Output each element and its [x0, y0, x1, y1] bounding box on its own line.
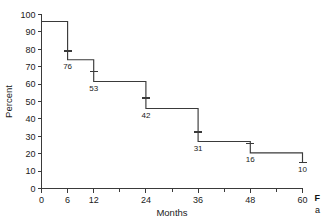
x-tick-label-48: 48: [245, 195, 255, 205]
y-tick-label-100: 100: [20, 10, 35, 20]
caption-fragment-line2: a: [315, 205, 320, 216]
y-tick-label-0: 0: [30, 184, 35, 194]
x-tick-label-12: 12: [89, 195, 99, 205]
at-risk-label-16: 16: [246, 155, 255, 164]
survival-step-curve: [42, 21, 303, 162]
y-axis-title: Percent: [3, 85, 14, 118]
x-tick-label-24: 24: [141, 195, 151, 205]
x-axis-title: Months: [156, 207, 187, 218]
survival-chart-figure: 0102030405060708090100061224364860765342…: [0, 0, 321, 224]
y-tick-label-30: 30: [25, 132, 35, 142]
y-tick-label-80: 80: [25, 45, 35, 55]
y-tick-label-70: 70: [25, 62, 35, 72]
y-tick-label-10: 10: [25, 166, 35, 176]
at-risk-label-76: 76: [63, 62, 72, 71]
x-tick-label-60: 60: [297, 195, 307, 205]
y-tick-label-20: 20: [25, 149, 35, 159]
x-tick-label-6: 6: [65, 195, 70, 205]
y-tick-label-50: 50: [25, 97, 35, 107]
y-tick-label-90: 90: [25, 27, 35, 37]
at-risk-label-31: 31: [194, 144, 203, 153]
y-tick-label-60: 60: [25, 79, 35, 89]
at-risk-label-10: 10: [298, 165, 307, 174]
caption-fragment-line1: F: [315, 193, 321, 204]
x-tick-label-36: 36: [193, 195, 203, 205]
at-risk-label-42: 42: [141, 111, 150, 120]
y-tick-label-40: 40: [25, 114, 35, 124]
x-tick-label-0: 0: [39, 195, 44, 205]
kaplan-meier-plot: 0102030405060708090100061224364860765342…: [0, 0, 321, 224]
at-risk-label-53: 53: [89, 84, 98, 93]
